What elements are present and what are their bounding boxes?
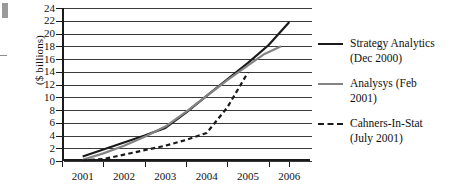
legend-swatch-icon — [318, 123, 343, 125]
y-tick-label: 2 — [33, 143, 55, 154]
x-tick-label: 2003 — [143, 170, 187, 182]
legend-swatch-icon — [318, 43, 343, 45]
y-tick-label: 10 — [33, 92, 55, 103]
legend-label-line: 2001) — [350, 91, 458, 106]
y-tick-label: 24 — [33, 3, 55, 14]
scan-artifact-dash — [0, 55, 7, 56]
y-tick-label: 4 — [33, 130, 55, 141]
x-tick-label: 2001 — [61, 170, 105, 182]
y-tick-label: 6 — [33, 117, 55, 128]
chart-figure: ($ billions) 242220181614121086420 20012… — [0, 0, 458, 191]
legend-label-line: Cahners-In-Stat — [350, 116, 458, 131]
y-tick-label: 0 — [33, 156, 55, 167]
legend-label-line: Analysys (Feb — [350, 76, 458, 91]
x-tick-label: 2002 — [102, 170, 146, 182]
x-tick-label: 2006 — [267, 170, 311, 182]
legend-label-line: (Dec 2000) — [350, 51, 458, 66]
legend-label-line: (July 2001) — [350, 131, 458, 146]
gridline — [64, 161, 312, 162]
x-tick-label: 2004 — [185, 170, 229, 182]
legend-swatch-icon — [318, 83, 343, 85]
y-tick-label: 14 — [33, 66, 55, 77]
legend-label: Strategy Analytics(Dec 2000) — [350, 36, 458, 66]
legend-label: Cahners-In-Stat(July 2001) — [350, 116, 458, 146]
series-layer — [62, 8, 310, 161]
scan-artifact-mark — [2, 3, 8, 18]
legend-label-line: Strategy Analytics — [350, 36, 458, 51]
legend-label: Analysys (Feb2001) — [350, 76, 458, 106]
y-tick-label: 12 — [33, 79, 55, 90]
series-line-1 — [83, 46, 281, 159]
y-tick-label: 8 — [33, 105, 55, 116]
y-tick-label: 18 — [33, 41, 55, 52]
series-line-0 — [83, 22, 290, 157]
y-tick-label: 20 — [33, 28, 55, 39]
x-tick-label: 2005 — [226, 170, 270, 182]
y-tick-label: 16 — [33, 54, 55, 65]
x-tick-mark — [62, 161, 63, 167]
y-tick-label: 22 — [33, 15, 55, 26]
